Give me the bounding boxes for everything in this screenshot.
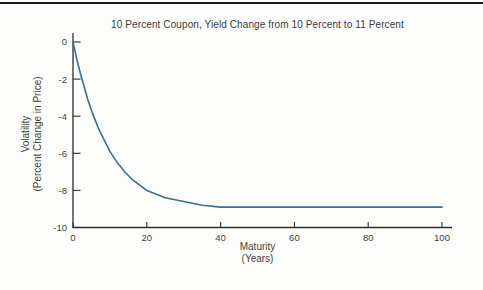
x-axis-label-line2: (Years) [73,253,442,265]
x-axis-label-line1: Maturity [73,241,442,253]
volatility-curve [73,42,442,207]
y-tick-label: 0 [62,36,67,47]
axis-spine [73,33,452,228]
figure: 10 Percent Coupon, Yield Change from 10 … [0,0,483,290]
y-tick-label: -6 [59,148,67,159]
y-tick-label: -10 [53,222,67,233]
y-tick-label: -8 [59,185,67,196]
y-tick-label: -2 [59,74,67,85]
y-tick-label: -4 [59,111,67,122]
x-axis-label: Maturity (Years) [73,241,442,265]
